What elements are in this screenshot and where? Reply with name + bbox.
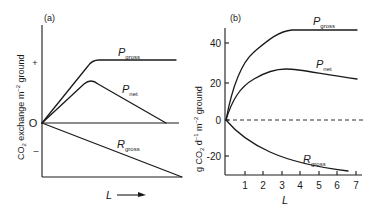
arrow-right-icon <box>138 192 146 197</box>
panel-b-xtick-5: 5 <box>316 180 322 191</box>
panel-b-ytick-0: 0 <box>215 115 221 126</box>
panel-a-label: (a) <box>44 13 55 23</box>
panel-a-rgross-label: Rgross <box>117 138 140 152</box>
panel-a-ytick-minus: – <box>33 146 38 156</box>
panel-b-rgross-curve <box>226 120 348 171</box>
panel-b-x-ticks: 1 2 3 4 5 6 7 <box>242 171 359 191</box>
panel-b-ytick-neg20: -20 <box>207 151 222 162</box>
panel-b-xtick-6: 6 <box>334 180 340 191</box>
panel-b-y-axis-label: g CO2 d–1 m–2 ground <box>193 86 205 172</box>
panel-b-label: (b) <box>230 13 241 23</box>
panel-a-ytick-plus: + <box>32 58 37 68</box>
panel-b-rgross-label: Rgross <box>303 153 326 167</box>
panel-a-pgross-label: Pgross <box>118 46 140 60</box>
panel-b-pgross-curve <box>226 30 357 120</box>
panel-b-pnet-curve <box>226 69 357 120</box>
panel-b-ytick-20: 20 <box>210 78 222 89</box>
figure: (a) + O – CO2 exchange m–2 ground Pgross… <box>0 0 372 210</box>
panel-b-xtick-7: 7 <box>353 180 359 191</box>
panel-b-pgross-label: Pgross <box>313 15 335 29</box>
panel-a-pnet-curve <box>42 81 166 123</box>
panel-b: (b) 40 20 0 -20 1 2 3 4 5 <box>193 13 364 206</box>
panel-a-pnet-label: Pnet <box>122 83 138 97</box>
panel-a-rgross-curve <box>42 123 182 177</box>
panel-a-pgross-curve <box>42 60 176 123</box>
panel-b-xtick-1: 1 <box>242 180 248 191</box>
panel-b-pnet-label: Pnet <box>316 58 332 72</box>
panel-b-xtick-3: 3 <box>279 180 285 191</box>
panel-a-y-axis-label: CO2 exchange m–2 ground <box>15 54 27 160</box>
panel-b-xtick-2: 2 <box>260 180 266 191</box>
panel-a-ytick-zero: O <box>29 117 38 129</box>
panel-a-x-axis-label: L <box>106 189 112 201</box>
panel-a: (a) + O – CO2 exchange m–2 ground Pgross… <box>15 13 182 201</box>
panel-b-y-ticks: 40 20 0 -20 <box>207 38 229 162</box>
panel-b-xtick-4: 4 <box>297 180 303 191</box>
panel-b-x-axis-label: L <box>282 194 288 206</box>
panel-b-ytick-40: 40 <box>210 38 222 49</box>
